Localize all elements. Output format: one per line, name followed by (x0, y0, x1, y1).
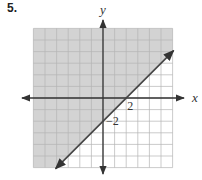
inequality-graph: x y 2 −2 (0, 0, 202, 180)
x-axis-label: x (191, 90, 198, 105)
y-tick-label: −2 (106, 114, 119, 128)
y-axis-label: y (98, 2, 106, 17)
x-tick-label: 2 (127, 99, 133, 113)
